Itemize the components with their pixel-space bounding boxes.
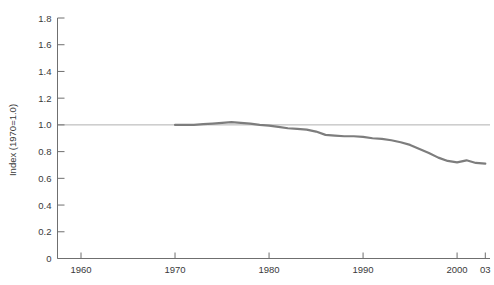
y-axis-title: Index (1970=1.0) bbox=[7, 104, 18, 176]
y-axis-title-text: Index (1970=1.0) bbox=[7, 104, 18, 176]
x-tick-label: 1960 bbox=[70, 264, 91, 275]
y-tick-label: 0.2 bbox=[38, 226, 51, 237]
x-tick-label: 2000 bbox=[447, 264, 468, 275]
y-tick-label: 0.6 bbox=[38, 173, 51, 184]
y-tick-label: 0.4 bbox=[38, 200, 51, 211]
y-tick-label: 1.0 bbox=[38, 119, 51, 130]
y-tick-label: 1.6 bbox=[38, 39, 51, 50]
line-chart: 00.20.40.60.81.01.21.41.61.8 19601970198… bbox=[0, 0, 494, 285]
x-tick-label: 1980 bbox=[258, 264, 279, 275]
x-tick-label: 03 bbox=[480, 264, 491, 275]
y-tick-label: 0 bbox=[46, 253, 51, 264]
y-tick-label: 0.8 bbox=[38, 146, 51, 157]
chart-background bbox=[0, 0, 494, 285]
x-tick-label: 1990 bbox=[353, 264, 374, 275]
chart-container: 00.20.40.60.81.01.21.41.61.8 19601970198… bbox=[0, 0, 494, 285]
y-tick-label: 1.2 bbox=[38, 93, 51, 104]
y-tick-label: 1.4 bbox=[38, 66, 51, 77]
y-tick-label: 1.8 bbox=[38, 13, 51, 24]
x-tick-label: 1970 bbox=[164, 264, 185, 275]
